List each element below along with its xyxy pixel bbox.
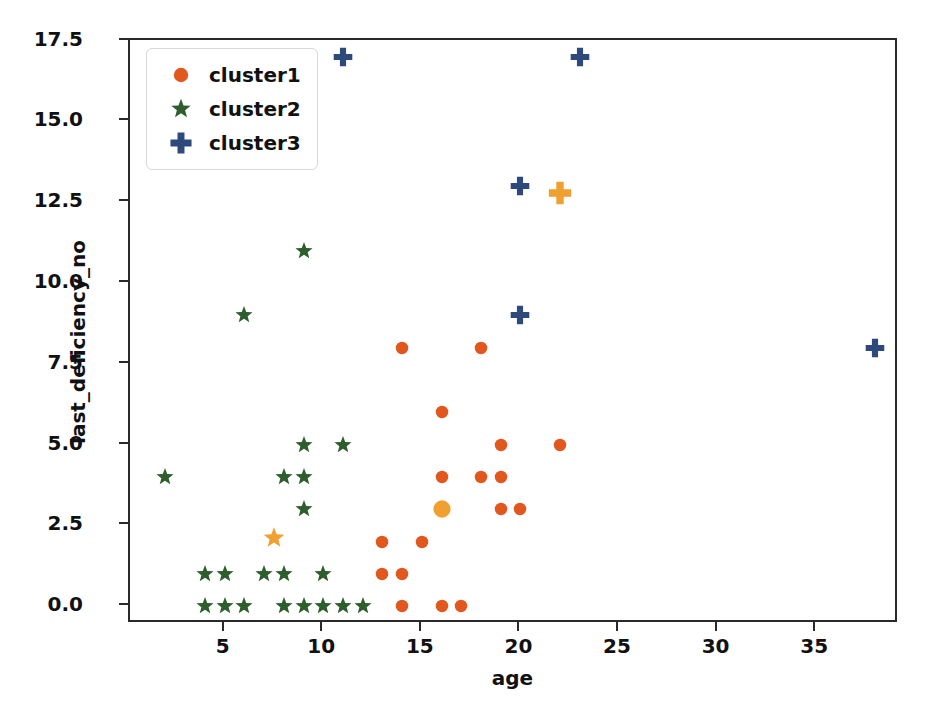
y-tick-mark — [119, 199, 128, 201]
data-point-centroids — [542, 175, 578, 211]
legend: cluster1cluster2cluster3 — [146, 48, 318, 170]
data-point-cluster1 — [389, 593, 415, 619]
x-tick-mark — [320, 622, 322, 631]
y-tick-label: 17.5 — [34, 27, 83, 51]
x-tick-label: 35 — [800, 634, 828, 658]
y-tick-mark — [119, 361, 128, 363]
data-point-cluster1 — [547, 432, 573, 458]
y-tick-label: 0.0 — [48, 592, 83, 616]
y-tick-mark — [119, 118, 128, 120]
y-axis-label: last_deficiency_no — [66, 192, 90, 492]
data-point-cluster2 — [210, 559, 240, 589]
data-point-cluster2 — [328, 430, 358, 460]
y-tick-mark — [119, 280, 128, 282]
data-point-cluster1 — [389, 335, 415, 361]
data-point-cluster3 — [860, 333, 890, 363]
data-point-cluster1 — [389, 561, 415, 587]
legend-item-cluster3[interactable]: cluster3 — [159, 126, 301, 160]
x-tick-mark — [222, 622, 224, 631]
data-point-cluster2 — [150, 462, 180, 492]
x-tick-label: 15 — [406, 634, 434, 658]
data-point-cluster2 — [289, 236, 319, 266]
data-point-cluster1 — [429, 399, 455, 425]
data-point-cluster2 — [348, 591, 378, 620]
y-tick-mark — [119, 38, 128, 40]
data-point-cluster1 — [369, 529, 395, 555]
data-point-centroids — [256, 520, 292, 556]
data-point-cluster2 — [308, 559, 338, 589]
data-point-cluster3 — [328, 42, 358, 72]
data-point-cluster2 — [229, 300, 259, 330]
legend-item-label: cluster3 — [203, 131, 301, 155]
chart-title — [128, 0, 897, 2]
data-point-cluster3 — [505, 171, 535, 201]
legend-item-cluster1[interactable]: cluster1 — [159, 58, 301, 92]
data-point-cluster1 — [488, 432, 514, 458]
data-point-centroids — [424, 491, 460, 527]
scatter-plot-figure: 51015202530350.02.55.07.510.012.515.017.… — [0, 0, 926, 718]
data-point-cluster1 — [409, 529, 435, 555]
data-point-cluster3 — [505, 300, 535, 330]
x-tick-label: 5 — [216, 634, 230, 658]
x-tick-label: 10 — [307, 634, 335, 658]
x-tick-mark — [419, 622, 421, 631]
x-tick-mark — [616, 622, 618, 631]
legend-item-cluster2[interactable]: cluster2 — [159, 92, 301, 126]
x-tick-mark — [517, 622, 519, 631]
y-tick-mark — [119, 522, 128, 524]
y-tick-label: 15.0 — [34, 107, 83, 131]
x-tick-mark — [715, 622, 717, 631]
data-point-cluster1 — [507, 496, 533, 522]
y-tick-mark — [119, 442, 128, 444]
star-icon — [159, 92, 203, 126]
x-tick-label: 30 — [702, 634, 730, 658]
legend-item-label: cluster1 — [203, 63, 301, 87]
x-tick-label: 25 — [603, 634, 631, 658]
data-point-cluster1 — [488, 464, 514, 490]
x-tick-label: 20 — [504, 634, 532, 658]
legend-item-label: cluster2 — [203, 97, 301, 121]
data-point-cluster1 — [448, 593, 474, 619]
plus-icon — [159, 126, 203, 160]
data-point-cluster2 — [289, 462, 319, 492]
circle-icon — [159, 60, 203, 90]
data-point-cluster2 — [289, 494, 319, 524]
data-point-cluster2 — [289, 430, 319, 460]
data-point-cluster3 — [565, 42, 595, 72]
y-tick-label: 2.5 — [48, 511, 83, 535]
data-point-cluster1 — [468, 335, 494, 361]
data-point-cluster1 — [429, 464, 455, 490]
x-axis-label: age — [128, 666, 897, 690]
data-point-cluster2 — [229, 591, 259, 620]
x-tick-mark — [813, 622, 815, 631]
y-tick-mark — [119, 603, 128, 605]
data-point-cluster2 — [269, 559, 299, 589]
